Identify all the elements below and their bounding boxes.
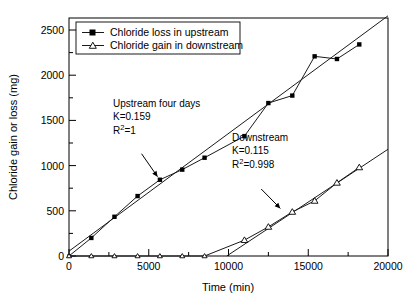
marker-filled-square: [312, 54, 316, 58]
x-tick-label-20000: 20000: [373, 260, 402, 272]
marker-filled-square: [135, 194, 139, 198]
y-tick-label-1000: 1000: [41, 160, 65, 172]
downstream-annotation-line1: Downstream: [232, 132, 288, 143]
chart-figure: 0 5000 10000 15000 20000 Time (min): [0, 0, 410, 308]
x-axis-title: Time (min): [202, 281, 254, 293]
marker-filled-square: [357, 42, 361, 46]
chart-legend: Chloride loss in upstream Chloride gain …: [76, 22, 243, 54]
downstream-annotation-line2: K=0.115: [232, 145, 269, 156]
marker-filled-square: [202, 156, 206, 160]
y-tick-label-0: 0: [58, 250, 64, 262]
upstream-annotation-line2: K=0.159: [113, 111, 151, 122]
chloride-gain-loss-chart: 0 5000 10000 15000 20000 Time (min): [0, 0, 410, 308]
y-tick-label-2500: 2500: [41, 24, 65, 36]
marker-filled-square: [112, 215, 116, 219]
upstream-r2-base: R: [113, 125, 120, 136]
marker-filled-square: [158, 178, 162, 182]
upstream-annotation-line3: R2=1: [113, 123, 136, 136]
downstream-r2-rest: =0.998: [243, 159, 274, 170]
downstream-r2-base: R: [232, 159, 239, 170]
legend-label-downstream: Chloride gain in downstream: [110, 39, 243, 51]
x-tick-label-15000: 15000: [294, 260, 323, 272]
filled-square-icon: [90, 30, 96, 36]
y-tick-label-2000: 2000: [41, 69, 65, 81]
x-tick-label-10000: 10000: [214, 260, 243, 272]
upstream-annotation-line1: Upstream four days: [113, 98, 200, 109]
x-tick-label-0: 0: [66, 260, 72, 272]
marker-filled-square: [89, 236, 93, 240]
legend-label-upstream: Chloride loss in upstream: [110, 26, 229, 38]
marker-filled-square: [335, 57, 339, 61]
y-axis-title: Chloride gain or loss (mg): [7, 74, 19, 200]
x-tick-label-5000: 5000: [137, 260, 161, 272]
marker-filled-square: [180, 167, 184, 171]
y-tick-label-1500: 1500: [41, 114, 65, 126]
upstream-r2-rest: =1: [124, 125, 136, 136]
marker-filled-square: [266, 101, 270, 105]
marker-filled-square: [290, 93, 294, 97]
downstream-annotation-line3: R2=0.998: [232, 157, 275, 170]
y-tick-label-500: 500: [46, 205, 64, 217]
